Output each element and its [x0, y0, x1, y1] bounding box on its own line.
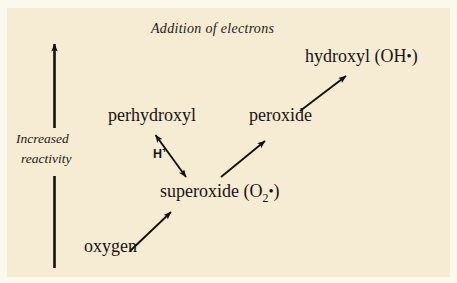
species-label-oxygen: oxygen	[84, 237, 137, 255]
species-label-superoxide: superoxide (O2•)	[160, 182, 280, 200]
hydroxyl-name: hydroxyl (OH	[305, 46, 407, 66]
species-label-perhydroxyl: perhydroxyl	[108, 106, 196, 124]
paper-edge-bottom	[0, 277, 457, 283]
reactivity-axis-label-line2: reactivity	[21, 152, 71, 166]
species-label-peroxide: peroxide	[249, 106, 312, 124]
superoxide-suffix: )	[274, 181, 280, 201]
paper-edge-top	[0, 0, 457, 8]
hydroxyl-suffix: )	[412, 46, 418, 66]
figure-title: Addition of electrons	[151, 22, 274, 36]
proton-symbol: H	[153, 147, 162, 161]
superoxide-name: superoxide (O	[160, 181, 262, 201]
paper-edge-right	[450, 0, 457, 283]
arrow-superoxide-to-peroxide	[221, 141, 265, 177]
proton-annotation: H+	[153, 148, 167, 161]
oxygen-radical-pathway-figure: Addition of electrons Increased reactivi…	[0, 0, 457, 283]
proton-charge-symbol: +	[162, 145, 167, 155]
paper-edge-left	[0, 0, 7, 283]
species-label-hydroxyl: hydroxyl (OH•)	[305, 47, 418, 65]
reactivity-axis-label-line1: Increased	[16, 132, 69, 146]
